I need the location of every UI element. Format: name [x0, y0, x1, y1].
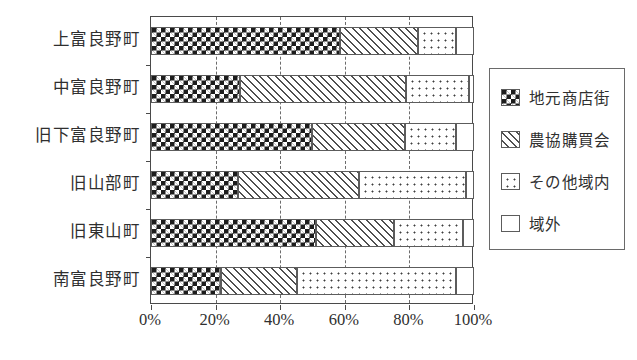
category-label: 南富良野町: [53, 258, 141, 302]
bar-segment: [221, 267, 297, 295]
legend-item: その他域内: [501, 170, 611, 192]
category-axis-labels: 上富良野町中富良野町旧下富良野町旧山部町旧東山町南富良野町: [8, 16, 146, 304]
bar-segment: [406, 75, 469, 103]
legend-label: 地元商店街: [529, 86, 611, 108]
bar-segment: [240, 75, 406, 103]
bar-segment: [456, 27, 474, 55]
bar-segment: [405, 123, 456, 151]
bar-segment: [359, 171, 466, 199]
y-axis-tick: [146, 209, 151, 210]
bar-segment: [463, 219, 474, 247]
x-axis-label: 20%: [199, 310, 229, 330]
bar-segment: [456, 123, 474, 151]
y-axis-tick: [146, 113, 151, 114]
category-label: 中富良野町: [53, 66, 141, 110]
bar-rows: [151, 17, 472, 303]
category-label: 旧山部町: [70, 162, 140, 206]
legend-swatch-dotted: [501, 173, 520, 190]
bar-segment: [151, 171, 238, 199]
bar-row: [151, 75, 472, 103]
stacked-bar-chart-figure: 上富良野町中富良野町旧下富良野町旧山部町旧東山町南富良野町 0%20%40%60…: [0, 0, 637, 360]
bar-row: [151, 171, 472, 199]
category-label: 旧東山町: [70, 210, 140, 254]
y-axis-tick: [146, 65, 151, 66]
legend-item: 地元商店街: [501, 86, 611, 108]
legend-label: その他域内: [529, 170, 611, 192]
bar-segment: [238, 171, 359, 199]
y-axis-tick: [146, 257, 151, 258]
x-axis-label: 80%: [393, 310, 423, 330]
legend-label: 農協購買会: [529, 128, 611, 150]
chart-legend: 地元商店街農協購買会その他域内域外: [489, 68, 625, 250]
bar-segment: [418, 27, 456, 55]
bar-segment: [151, 267, 221, 295]
bar-segment: [456, 267, 474, 295]
bar-segment: [151, 75, 240, 103]
legend-swatch-checkerboard: [501, 89, 520, 106]
x-axis-label: 0%: [139, 310, 161, 330]
legend-label: 域外: [529, 212, 562, 234]
bar-row: [151, 267, 472, 295]
category-label: 旧下富良野町: [35, 114, 140, 158]
x-axis-label: 40%: [264, 310, 294, 330]
bar-row: [151, 27, 472, 55]
bar-segment: [466, 171, 474, 199]
bar-segment: [340, 27, 418, 55]
legend-swatch-plain-white: [501, 215, 520, 232]
x-axis-label: 60%: [329, 310, 359, 330]
category-label: 上富良野町: [53, 18, 141, 62]
legend-item: 域外: [501, 212, 562, 234]
bar-segment: [469, 75, 474, 103]
bar-segment: [316, 219, 394, 247]
bar-segment: [151, 123, 312, 151]
bar-segment: [312, 123, 405, 151]
plot-area: [150, 16, 473, 304]
bar-segment: [151, 27, 340, 55]
x-axis-labels: 0%20%40%60%80%100%: [150, 310, 473, 336]
bar-segment: [297, 267, 456, 295]
x-axis-label: 100%: [454, 310, 493, 330]
y-axis-tick: [146, 161, 151, 162]
legend-swatch-diagonal-hatch: [501, 131, 520, 148]
bar-segment: [151, 219, 316, 247]
bar-row: [151, 123, 472, 151]
legend-item: 農協購買会: [501, 128, 611, 150]
bar-row: [151, 219, 472, 247]
bar-segment: [394, 219, 463, 247]
